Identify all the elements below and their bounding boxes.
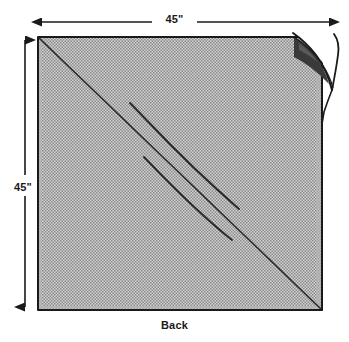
fabric-panel-diagram: 45" 45" Back — [0, 0, 349, 342]
dimension-label-height: 45" — [0, 182, 46, 193]
diagram-canvas — [0, 0, 349, 342]
fold-tail-edge — [322, 90, 332, 124]
fabric-panel — [38, 37, 322, 310]
diagram-caption: Back — [0, 320, 349, 331]
dimension-label-width: 45" — [0, 14, 349, 25]
